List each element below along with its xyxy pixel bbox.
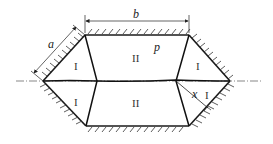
dimension-a [31,25,85,81]
region-lower-right: I [205,89,209,101]
label-x: x [191,87,198,101]
region-upper-center: II [132,52,140,64]
diagram-canvas: a b p x I II I I II I [0,0,273,144]
region-lower-center: II [132,97,140,109]
label-b: b [133,7,139,21]
region-lower-left: I [74,96,78,108]
label-p: p [153,40,160,54]
region-upper-right: I [196,60,200,72]
region-upper-left: I [74,60,78,72]
hatch-top [88,29,190,34]
hatch-lower-right [192,84,234,127]
hatch-upper-right [192,34,233,79]
label-a: a [48,37,54,51]
hatch-bottom [88,127,183,132]
